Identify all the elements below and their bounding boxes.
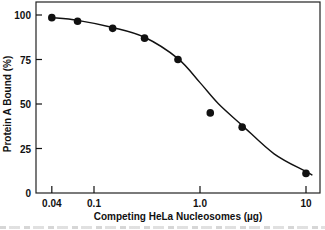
plot-frame [36,2,320,193]
y-tick-label: 75 [20,55,32,66]
x-tick-label: 0.04 [42,198,62,209]
x-axis-title: Competing HeLa Nucleosomes (µg) [94,211,263,222]
y-axis: 0255075100 [14,10,42,199]
x-tick-label: 0.1 [87,198,101,209]
y-tick-label: 100 [14,10,31,21]
fitted-curve [52,18,313,176]
y-tick-label: 50 [20,99,32,110]
data-point [302,170,310,178]
chart: 0255075100 0.040.11.010 Competing HeLa N… [0,0,325,224]
x-axis: 0.040.11.010 [42,186,312,209]
plot-border [36,2,320,193]
figure-caption-clipped [0,224,325,230]
data-point [174,56,182,64]
data-points [48,14,310,177]
y-tick-label: 0 [25,188,31,199]
x-tick-label: 10 [300,198,312,209]
data-point [238,123,246,131]
x-tick-label: 1.0 [193,198,207,209]
y-axis-title: Protein A Bound (%) [2,56,13,152]
y-tick-label: 25 [20,144,32,155]
data-point [141,34,149,42]
data-point [48,14,56,22]
data-point [206,109,214,117]
data-point [74,17,82,25]
data-point [109,25,117,33]
